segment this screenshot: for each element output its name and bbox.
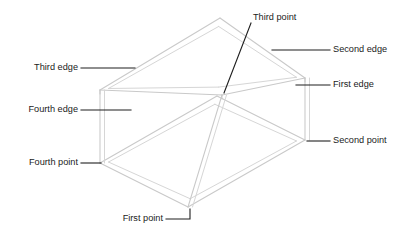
label-first-point: First point bbox=[123, 213, 164, 223]
bottom-edge-back-left-outer bbox=[100, 96, 217, 163]
top-edge-left-front-inner bbox=[108, 87, 218, 88]
bottom-edge-back-left-inner bbox=[109, 104, 215, 162]
top-edge-back-left-outer bbox=[100, 18, 220, 90]
bottom-edge-front-right-inner bbox=[190, 141, 296, 199]
bottom-edge-right-back-inner bbox=[215, 104, 297, 141]
label-first-edge: First edge bbox=[333, 79, 374, 89]
vertical-edge-front-inner bbox=[193, 95, 227, 207]
top-edge-back-left-inner bbox=[108, 26, 218, 88]
label-fourth-edge: Fourth edge bbox=[28, 104, 78, 114]
label-third-point: Third point bbox=[253, 12, 297, 22]
leader-line-first-point bbox=[166, 209, 190, 219]
box-diagram: Third pointSecond edgeFirst edgeSecond p… bbox=[0, 0, 399, 230]
label-second-point: Second point bbox=[333, 135, 387, 145]
label-third-edge: Third edge bbox=[34, 62, 78, 72]
bottom-edge-right-back-outer bbox=[217, 96, 305, 140]
top-edge-front-right-outer bbox=[222, 78, 305, 95]
label-fourth-point: Fourth point bbox=[29, 157, 78, 167]
labels-group: Third pointSecond edgeFirst edgeSecond p… bbox=[28, 12, 387, 223]
bottom-edge-left-front-outer bbox=[100, 163, 188, 207]
label-second-edge: Second edge bbox=[333, 44, 387, 54]
bottom-edge-left-front-inner bbox=[109, 162, 191, 199]
wireframe-group bbox=[100, 18, 310, 207]
top-edge-right-back-inner bbox=[219, 26, 297, 77]
box-wireframe-svg: Third pointSecond edgeFirst edgeSecond p… bbox=[0, 0, 399, 230]
top-edge-left-front-outer bbox=[100, 90, 222, 95]
leader-line-third-point bbox=[224, 23, 251, 93]
leader-lines-group bbox=[81, 23, 330, 219]
